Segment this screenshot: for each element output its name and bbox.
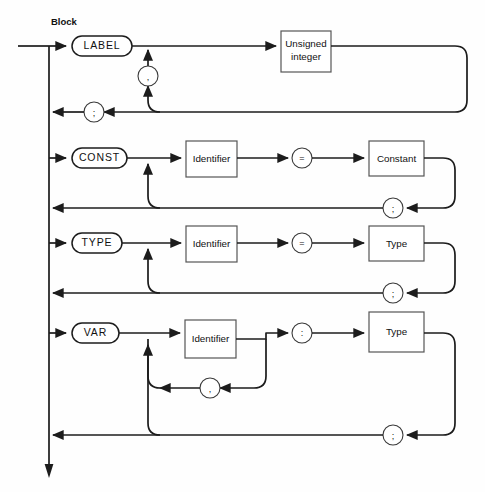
terminal-var[interactable]: VAR: [72, 323, 119, 343]
semicolon-glyph-const: ;: [392, 204, 395, 214]
terminator-semicolon-label: ;: [84, 102, 104, 122]
terminal-type-text: TYPE: [81, 236, 112, 248]
railroad-diagram-svg: Block LABEL Unsigned: [0, 0, 485, 492]
terminator-semicolon-const: ;: [383, 198, 403, 218]
nonterminal-identifier-type[interactable]: Identifier: [186, 226, 237, 262]
terminal-type[interactable]: TYPE: [72, 233, 122, 253]
colon-glyph-var: :: [301, 328, 304, 338]
identifier-const-text: Identifier: [193, 153, 231, 164]
nonterminal-constant[interactable]: Constant: [369, 141, 424, 176]
type-box-text: Type: [386, 238, 408, 249]
terminal-var-text: VAR: [84, 326, 108, 338]
operator-equals-type: =: [292, 233, 312, 253]
type-var-text: Type: [386, 326, 408, 337]
unsigned-integer-line2: integer: [291, 51, 322, 62]
const-section: CONST Identifier = Constant: [49, 141, 455, 218]
equals-glyph-const: =: [299, 153, 304, 163]
comma-glyph-var: ,: [209, 384, 212, 394]
identifier-type-text: Identifier: [193, 238, 231, 249]
diagram-title: Block: [51, 16, 78, 27]
type-section: TYPE Identifier = Type ;: [49, 226, 455, 303]
nonterminal-unsigned-integer[interactable]: Unsigned integer: [281, 31, 331, 72]
terminal-const-text: CONST: [79, 151, 120, 163]
var-section: VAR Identifier : Type ,: [49, 312, 455, 445]
nonterminal-identifier-const[interactable]: Identifier: [186, 141, 237, 177]
terminal-label-text: LABEL: [83, 39, 120, 51]
nonterminal-type-box[interactable]: Type: [369, 226, 424, 261]
separator-colon-var: :: [292, 323, 312, 343]
operator-equals-const: =: [292, 148, 312, 168]
identifier-var-text: Identifier: [192, 333, 230, 344]
entry-rail: [18, 46, 53, 478]
terminator-semicolon-type: ;: [383, 283, 403, 303]
semicolon-glyph-type: ;: [392, 289, 395, 299]
nonterminal-type-var[interactable]: Type: [369, 312, 424, 352]
terminal-const[interactable]: CONST: [72, 148, 127, 168]
syntax-diagram-canvas: Block LABEL Unsigned: [0, 0, 485, 492]
constant-text: Constant: [377, 153, 416, 164]
semicolon-glyph-var: ;: [392, 431, 395, 441]
nonterminal-identifier-var[interactable]: Identifier: [185, 320, 236, 358]
terminator-semicolon-var: ;: [383, 425, 403, 445]
equals-glyph-type: =: [299, 238, 304, 248]
comma-glyph-label: ,: [147, 72, 150, 82]
semicolon-glyph-label: ;: [93, 108, 96, 118]
terminal-label[interactable]: LABEL: [72, 36, 132, 56]
separator-comma-label: ,: [138, 66, 158, 86]
label-section: LABEL Unsigned integer ,: [49, 31, 467, 122]
unsigned-integer-line1: Unsigned: [285, 38, 326, 49]
separator-comma-var: ,: [200, 378, 220, 398]
